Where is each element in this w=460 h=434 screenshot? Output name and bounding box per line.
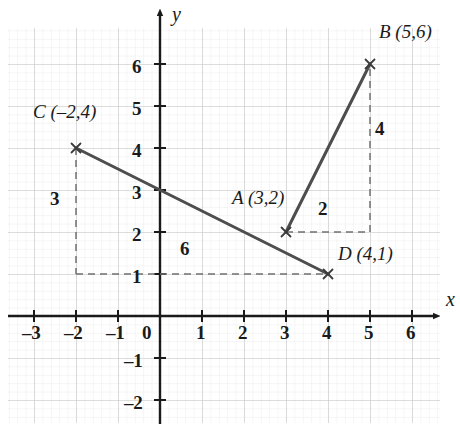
x-tick-label-2: 2 <box>238 323 247 342</box>
x-tick-label-0: 0 <box>142 323 151 342</box>
x-tick-label--1: –1 <box>106 323 125 342</box>
y-tick-label-5: 5 <box>132 99 141 118</box>
coordinate-plane-figure: –3 –2 –1 0 1 2 3 4 5 6 6 5 4 3 2 1 –1 –2… <box>0 0 460 434</box>
y-tick-label--1: –1 <box>124 351 143 370</box>
x-tick-label--2: –2 <box>64 323 83 342</box>
point-label-D: D (4,1) <box>338 244 393 263</box>
x-tick-label-4: 4 <box>322 323 331 342</box>
measurement-label-drop-CD: 3 <box>50 189 60 208</box>
grid-background <box>8 28 440 423</box>
x-tick-label-3: 3 <box>280 323 289 342</box>
x-axis-name: x <box>446 289 455 309</box>
measurement-label-run-AB: 2 <box>318 199 328 218</box>
y-tick-label-1: 1 <box>132 267 141 286</box>
measurement-label-run-CD: 6 <box>180 239 190 258</box>
y-tick-label-6: 6 <box>132 57 141 76</box>
y-tick-label-2: 2 <box>132 225 141 244</box>
x-tick-label--3: –3 <box>22 323 41 342</box>
point-label-C: C (–2,4) <box>33 102 96 121</box>
measurement-label-rise-AB: 4 <box>375 119 385 138</box>
plot-canvas <box>0 0 460 434</box>
x-tick-label-1: 1 <box>196 323 205 342</box>
y-tick-label--2: –2 <box>124 393 143 412</box>
y-tick-label-3: 3 <box>132 183 141 202</box>
x-tick-label-5: 5 <box>364 323 373 342</box>
y-tick-label-4: 4 <box>132 141 141 160</box>
point-label-B: B (5,6) <box>379 22 432 41</box>
y-axis-name: y <box>172 4 181 24</box>
x-tick-label-6: 6 <box>406 323 415 342</box>
point-label-A: A (3,2) <box>232 188 284 207</box>
